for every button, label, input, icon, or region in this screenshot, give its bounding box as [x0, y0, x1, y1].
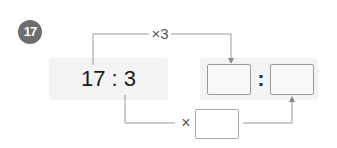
- answer-ratio-separator: :: [253, 60, 269, 100]
- answer-first-value-box[interactable]: [207, 64, 251, 95]
- bottom-multiplier-label: ×: [178, 114, 194, 132]
- bottom-connector-line-right: [243, 100, 292, 123]
- given-ratio: 17 : 3: [49, 58, 168, 100]
- top-multiplier-label: ×3: [149, 25, 171, 42]
- multiplier-answer-box[interactable]: [195, 109, 239, 139]
- answer-second-value-box[interactable]: [270, 64, 314, 95]
- arrow-up-icon: [289, 96, 295, 102]
